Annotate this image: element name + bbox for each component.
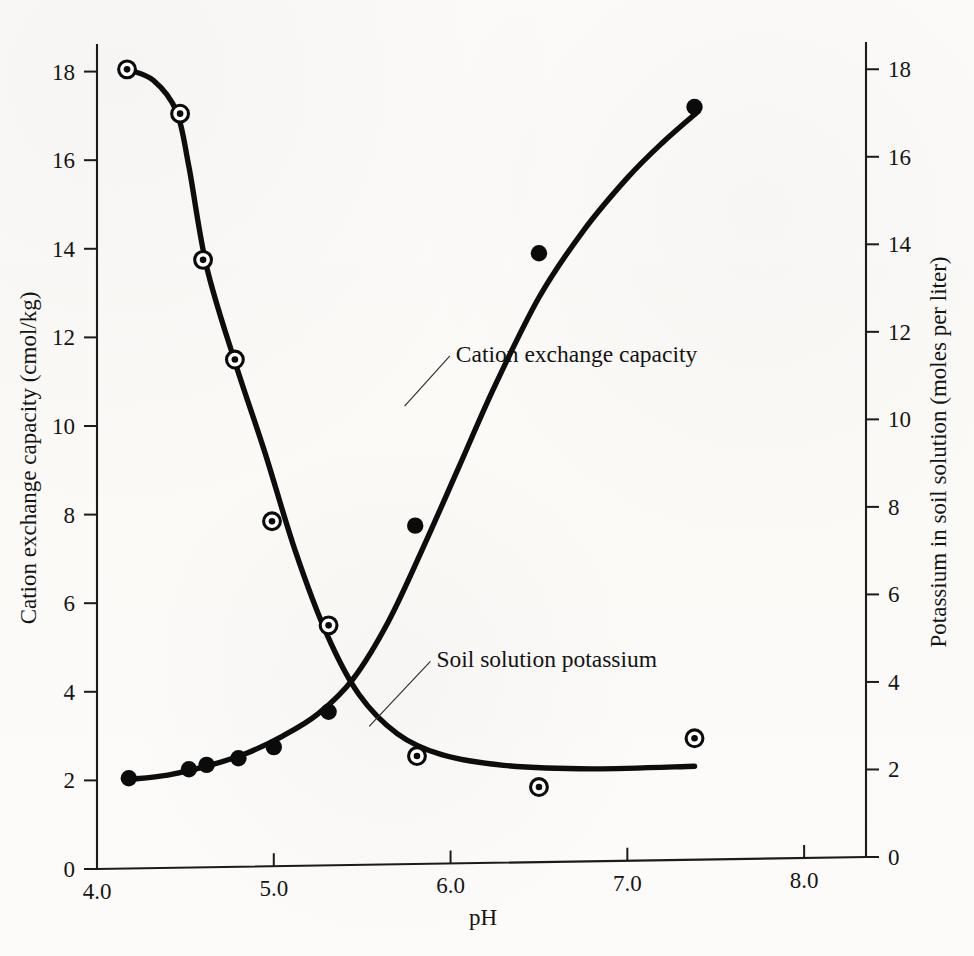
bottom-axis-spine — [97, 857, 866, 869]
right-axis-tick-label: 10 — [888, 407, 911, 432]
right-axis-tick-label: 0 — [888, 845, 900, 870]
data-point-filled — [407, 517, 423, 533]
right-axis-tick-label: 14 — [888, 232, 912, 257]
x-axis-tick-label: 8.0 — [790, 868, 819, 893]
data-point-filled — [686, 99, 702, 115]
left-axis-tick-label: 2 — [64, 768, 76, 793]
right-axis-tick-label: 16 — [888, 145, 911, 170]
annotation-leader-1 — [405, 356, 450, 406]
annotation-label-2: Soil solution potassium — [436, 646, 657, 672]
right-axis-tick-label: 18 — [888, 57, 911, 82]
left-axis-tick-label: 6 — [64, 591, 76, 616]
x-axis-tick-label: 6.0 — [436, 873, 465, 898]
left-axis-tick-label: 4 — [64, 680, 76, 705]
left-axis-tick-label: 12 — [52, 325, 75, 350]
data-point-core — [269, 518, 276, 525]
series-2 — [121, 99, 703, 787]
data-point-core — [124, 66, 131, 73]
x-axis-title: pH — [469, 905, 497, 930]
data-point-filled — [266, 739, 282, 755]
right-axis-tick-label: 2 — [888, 757, 900, 782]
data-point-core — [232, 356, 239, 363]
figure-container: 0246810121416180246810121416184.05.06.07… — [0, 0, 974, 956]
left-axis-tick-label: 18 — [52, 60, 75, 85]
data-point-core — [691, 735, 698, 742]
data-point-filled — [198, 757, 214, 773]
annotation-leader-2 — [369, 661, 430, 726]
left-axis-tick-label: 10 — [52, 414, 75, 439]
right-axis-tick-label: 12 — [888, 320, 911, 345]
x-axis-tick-label: 7.0 — [613, 871, 642, 896]
right-axis-tick-label: 8 — [888, 495, 900, 520]
data-point-core — [200, 257, 207, 264]
data-point-filled — [531, 245, 547, 261]
data-point-filled — [181, 761, 197, 777]
right-axis-title: Potassium in soil solution (moles per li… — [926, 257, 951, 648]
left-axis-tick-label: 8 — [64, 503, 76, 528]
left-axis-tick-label: 16 — [52, 148, 75, 173]
annotation-group: Cation exchange capacitySoil solution po… — [369, 341, 697, 727]
series-1 — [119, 61, 703, 795]
data-point-core — [536, 784, 543, 791]
left-axis-tick-label: 0 — [64, 857, 76, 882]
data-point-filled — [230, 750, 246, 766]
data-point-core — [177, 110, 184, 117]
left-axis-tick-label: 14 — [52, 237, 76, 262]
right-axis-tick-label: 4 — [888, 670, 900, 695]
series-group — [119, 61, 703, 795]
data-point-filled — [121, 770, 137, 786]
x-axis-tick-label: 4.0 — [83, 879, 112, 904]
data-point-filled — [320, 704, 336, 720]
data-point-core — [414, 753, 421, 760]
annotation-label-1: Cation exchange capacity — [456, 341, 698, 367]
right-axis-tick-label: 6 — [888, 582, 900, 607]
x-axis-tick-label: 5.0 — [259, 876, 288, 901]
chart-plot: 0246810121416180246810121416184.05.06.07… — [0, 0, 974, 956]
left-axis-title: Cation exchange capacity (cmol/kg) — [16, 292, 41, 625]
data-point-core — [325, 622, 332, 629]
